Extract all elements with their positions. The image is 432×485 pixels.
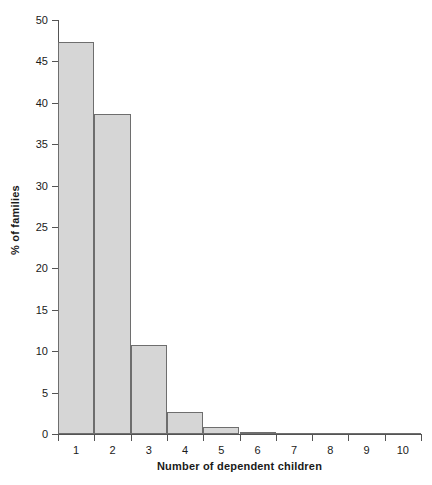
x-axis-tick-label: 8 — [315, 444, 345, 456]
histogram-bar — [203, 427, 239, 434]
x-axis-tick-label: 6 — [243, 444, 273, 456]
x-axis-tick — [276, 435, 277, 441]
y-axis-tick-label: 5 — [0, 387, 48, 399]
x-axis-tick-label: 2 — [97, 444, 127, 456]
histogram-bar — [167, 412, 203, 434]
x-axis-tick-label: 7 — [279, 444, 309, 456]
y-axis-tick-label: 50 — [0, 14, 48, 26]
histogram-bar — [312, 433, 348, 434]
y-axis-tick-label: 15 — [0, 304, 48, 316]
histogram-bar — [385, 433, 421, 434]
x-axis-tick — [385, 435, 386, 441]
x-axis-tick-label: 5 — [206, 444, 236, 456]
y-axis-tick-label: 0 — [0, 428, 48, 440]
x-axis-tick — [94, 435, 95, 441]
y-axis-tick-label: 45 — [0, 55, 48, 67]
histogram-figure: % of families 05101520253035404550 12345… — [0, 0, 432, 485]
x-axis-tick-label: 4 — [170, 444, 200, 456]
histogram-bar — [94, 114, 130, 434]
y-axis-tick-label: 35 — [0, 138, 48, 150]
x-axis-tick — [312, 435, 313, 441]
x-axis-title-text: Number of dependent children — [157, 460, 322, 472]
x-axis-tick-label: 3 — [134, 444, 164, 456]
y-axis-tick-label: 20 — [0, 262, 48, 274]
y-axis-tick-label: 25 — [0, 221, 48, 233]
x-axis-tick — [348, 435, 349, 441]
x-axis-tick — [58, 435, 59, 441]
y-axis-tick-label: 10 — [0, 345, 48, 357]
x-axis-tick-label: 10 — [388, 444, 418, 456]
x-axis-tick-label: 9 — [352, 444, 382, 456]
histogram-bar — [348, 433, 384, 434]
x-axis-tick — [203, 435, 204, 441]
histogram-bar — [58, 42, 94, 434]
x-axis-tick — [240, 435, 241, 441]
x-axis-tick — [131, 435, 132, 441]
histogram-bar — [240, 432, 276, 434]
histogram-bar — [276, 433, 312, 434]
x-axis-title: Number of dependent children — [58, 460, 421, 472]
y-axis-title-text: % of families — [9, 185, 21, 255]
x-axis-tick-label: 1 — [61, 444, 91, 456]
y-axis-tick-label: 40 — [0, 97, 48, 109]
y-axis-tick-label: 30 — [0, 180, 48, 192]
x-axis-tick — [167, 435, 168, 441]
x-axis-tick — [421, 435, 422, 441]
histogram-bar — [131, 345, 167, 434]
